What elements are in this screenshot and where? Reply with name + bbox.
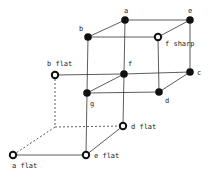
dashed-edge	[55, 126, 123, 127]
labels-layer: aebf sharpfcb flatgdd flate flata flat	[12, 7, 201, 170]
node-label-d-flat: d flat	[131, 123, 156, 131]
edge-c-d	[159, 72, 190, 92]
edge-f-c	[124, 72, 190, 74]
edge-a-f	[124, 20, 125, 74]
edge-g-d	[87, 92, 159, 93]
edges-layer	[13, 20, 190, 155]
node-f	[120, 70, 128, 78]
node-g	[83, 89, 91, 97]
node-label-e-flat: e flat	[94, 152, 119, 160]
edge-g-e_flat	[86, 93, 87, 155]
node-a-flat	[10, 152, 16, 158]
node-label-d: d	[165, 97, 169, 105]
key-cube-diagram: aebf sharpfcb flatgdd flate flata flat	[0, 0, 211, 178]
edge-f_sharp-d	[158, 37, 159, 92]
node-label-a-flat: a flat	[12, 162, 37, 170]
edge-a-b	[88, 20, 125, 37]
edge-b-g	[87, 37, 88, 93]
node-label-e: e	[188, 7, 192, 15]
dashed-edge	[13, 127, 55, 155]
edge-b_flat-f	[55, 74, 124, 75]
node-c	[186, 68, 194, 76]
node-label-f-sharp: f sharp	[165, 40, 195, 48]
edge-e-f_sharp	[158, 20, 190, 37]
node-label-a: a	[124, 7, 128, 15]
node-d	[155, 88, 163, 96]
node-a	[121, 16, 129, 24]
node-b	[84, 33, 92, 41]
node-label-g: g	[90, 100, 94, 108]
node-label-b-flat: b flat	[47, 60, 72, 68]
node-label-c: c	[197, 69, 201, 77]
node-label-f: f	[128, 60, 132, 68]
node-e-flat	[83, 152, 89, 158]
edge-f-g	[87, 74, 124, 93]
node-d-flat	[120, 123, 126, 129]
node-e	[186, 16, 194, 24]
node-f-sharp	[155, 34, 161, 40]
node-b-flat	[52, 72, 58, 78]
dashed-edges-layer	[13, 75, 123, 155]
edge-e_flat-d_flat	[86, 126, 123, 155]
node-label-b: b	[79, 25, 83, 33]
edge-f-d_flat	[123, 74, 124, 126]
